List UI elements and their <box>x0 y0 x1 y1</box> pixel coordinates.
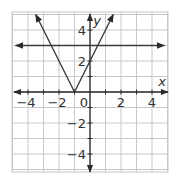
abs-value-left-branch <box>36 15 75 93</box>
x-tick-label: −2 <box>47 95 66 110</box>
y-axis-label: y <box>92 13 101 28</box>
axes <box>14 14 168 172</box>
x-axis-label: x <box>157 74 166 89</box>
y-tick-label: 4 <box>78 23 86 38</box>
tick-labels: −4−2240−4−224xy <box>16 13 166 162</box>
x-tick-label: −4 <box>16 95 35 110</box>
origin-label: 0 <box>80 95 88 110</box>
x-tick-label: 4 <box>148 95 156 110</box>
y-tick-label: 2 <box>78 54 86 69</box>
y-tick-label: −2 <box>67 116 86 131</box>
y-tick-label: −4 <box>67 147 86 162</box>
coordinate-plane: −4−2240−4−224xy <box>0 0 172 181</box>
x-tick-label: 2 <box>117 95 125 110</box>
